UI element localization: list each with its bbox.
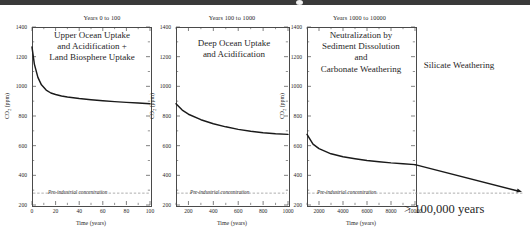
window-titlebar-strip — [0, 0, 530, 5]
co2-decay-figure: Years 0 to 100 1400 1200 1000 800 600 40… — [0, 6, 530, 248]
titlebar-notch — [296, 0, 303, 5]
curves-overlay — [0, 6, 530, 248]
